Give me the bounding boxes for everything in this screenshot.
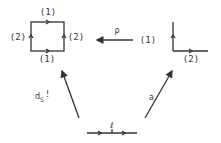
square-top-label: (1) [40, 7, 56, 17]
rho-arrow: ρ [97, 26, 133, 40]
corner-object: (1) (2) [140, 22, 208, 64]
left-diagonal-line [62, 71, 79, 118]
right-diagonal-arrow: a [145, 71, 172, 118]
square-object: (1) (2) (2) (1) [10, 7, 84, 64]
square-bottom-label: (1) [39, 54, 55, 64]
rho-label: ρ [114, 26, 119, 35]
square-outline [31, 22, 64, 51]
square-right-label: (2) [68, 32, 84, 42]
commutative-diagram: (1) (2) (2) (1) ρ (1) (2) dS! a ℓ [0, 0, 221, 143]
corner-horizontal-label: (2) [183, 54, 199, 64]
left-arrow-label: dS! [35, 90, 49, 103]
square-left-label: (2) [10, 32, 26, 42]
base-object: ℓ [87, 121, 137, 135]
base-label: ℓ [109, 121, 113, 130]
corner-vertical-label: (1) [140, 35, 156, 45]
right-arrow-label: a [149, 93, 154, 102]
left-diagonal-arrow: dS! [35, 71, 79, 118]
